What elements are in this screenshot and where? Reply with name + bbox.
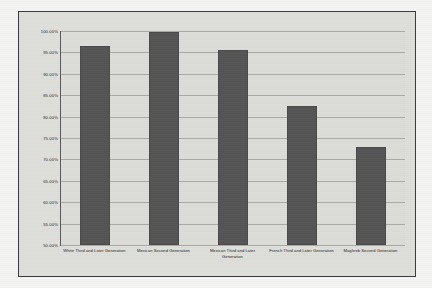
y-axis-tick-label: 55.00%	[43, 221, 58, 226]
y-axis-tick-label: 65.00%	[43, 178, 58, 183]
x-axis-labels: White Third and Later GenerationMexican …	[60, 248, 405, 260]
scanned-page: Figure 3. Percent with no PSE who are Em…	[0, 0, 432, 288]
y-axis-tick-label: 50.00%	[43, 243, 58, 248]
y-axis-tick-label: 90.00%	[43, 71, 58, 76]
bar-slot	[130, 31, 199, 245]
bar[interactable]	[80, 46, 110, 245]
bar-slot	[61, 31, 130, 245]
x-axis-category-label: French Third and Later Generation	[267, 248, 336, 260]
x-axis-category-label: White Third and Later Generation	[60, 248, 129, 260]
plot-area: 100.00%95.00%90.00%85.00%80.00%75.00%70.…	[60, 31, 405, 246]
bar-slot	[199, 31, 268, 245]
y-axis-tick-label: 85.00%	[43, 93, 58, 98]
bar[interactable]	[149, 32, 179, 245]
y-axis-tick-label: 70.00%	[43, 157, 58, 162]
y-axis-tick-label: 60.00%	[43, 200, 58, 205]
y-axis-tick-label: 95.00%	[43, 50, 58, 55]
y-axis-tick-label: 100.00%	[41, 29, 58, 34]
x-axis-category-label: Mexican Third and Later Generation	[198, 248, 267, 260]
y-axis-tick-label: 80.00%	[43, 114, 58, 119]
chart-frame: Figure 3. Percent with no PSE who are Em…	[18, 11, 416, 277]
gridline: 50.00%	[61, 245, 405, 246]
x-axis-category-label: Mexican Second Generation	[129, 248, 198, 260]
bar-slot	[336, 31, 405, 245]
bar-series	[61, 31, 405, 245]
bar[interactable]	[356, 147, 386, 245]
bar[interactable]	[218, 50, 248, 245]
y-axis-tick-label: 75.00%	[43, 136, 58, 141]
bar[interactable]	[287, 106, 317, 245]
x-axis-category-label: Maghreb Second Generation	[336, 248, 405, 260]
bar-slot	[267, 31, 336, 245]
